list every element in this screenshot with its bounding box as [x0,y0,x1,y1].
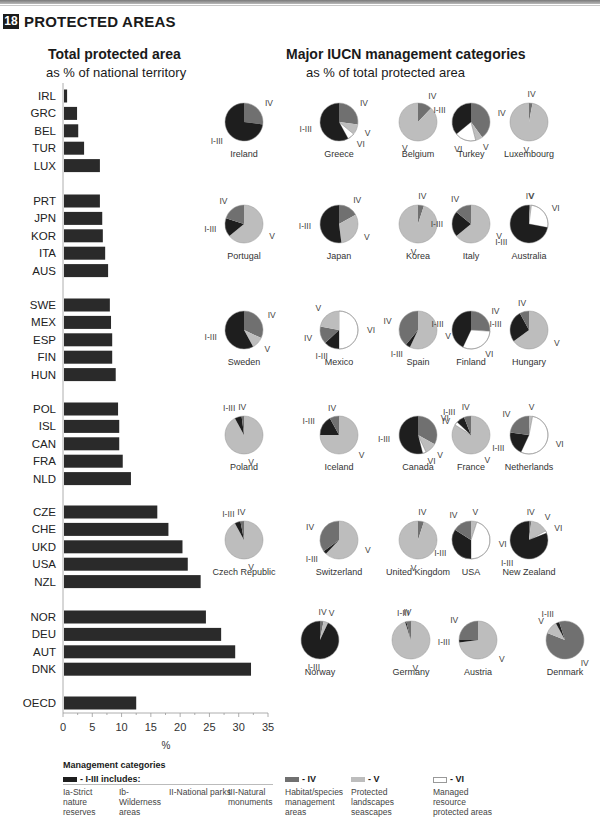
pie-country-label: Denmark [547,667,584,677]
pie-slice-label: IV [527,507,535,517]
pie-turkey: IVVVII-IIITurkey [433,103,506,159]
legend-sub-ia: Ia-Strict nature reserves [63,787,113,817]
pie-slice-label: I-III [542,609,554,619]
pie-slice-label: V [529,402,535,412]
pie-united-kingdom: IVVUnited Kingdom [386,507,450,577]
pie-slice-label: V [364,232,370,242]
pie-mexico: VII-IIIIVVMexico [304,303,375,367]
pie-slice-label: IV [418,191,426,201]
legend-desc-iv: Habitat/species management areas [285,787,340,817]
pie-slice-vi [529,205,548,227]
pie-slice-label: IV [498,108,506,118]
pie-slice-label: I-III [438,637,450,647]
legend-sub-ib: Ib-Wilderness areas [119,787,169,817]
pie-slice-label: I-III [378,434,390,444]
pie-slice-label: I-III [443,407,455,417]
pie-country-label: Korea [406,251,430,261]
legend-item-v: - V [351,774,380,784]
pie-poland: VI-IIIIVPoland [223,402,263,472]
pie-slice-iv [459,621,478,640]
pie-country-label: USA [462,567,481,577]
legend-item-iv: - IV [285,774,316,784]
pie-slice-label: V [529,191,535,201]
pie-slice-label: IV [528,89,536,99]
pie-slice-label: VI [367,325,375,335]
pie-italy: VI-IIIIVItaly [431,194,503,261]
pie-country-label: Ireland [230,149,258,159]
pie-slice-label: V [554,338,560,348]
pie-slice-iv [471,311,490,331]
pie-slice-label: I-III [492,443,504,453]
pie-slice-label: IV [268,310,276,320]
pie-country-label: Canada [402,462,434,472]
pie-slice-label: IV [220,196,228,206]
pie-slice-label: V [445,331,451,341]
legend-item-i-iii: - I-III includes: [63,774,141,784]
pie-country-label: Hungary [512,357,547,367]
pie-slice-label: V [437,450,443,460]
pie-slice-label: V [365,545,371,555]
pie-slice-label: VI [554,523,562,533]
pie-austria: VI-IIIIVAustria [438,615,505,677]
legend-swatch-iv [285,777,299,782]
pie-slice-label: I-III [434,548,446,558]
pie-switzerland: VI-IIIIVSwitzerland [306,521,371,577]
pie-slice-label: IV [384,316,392,326]
pie-slice-label: IV [449,510,457,520]
pie-netherlands: VVII-IIIIVNetherlands [492,402,563,472]
pie-slice-label: I-III [431,319,443,329]
pie-slice-label: I-III [223,403,235,413]
pie-country-label: Austria [464,667,492,677]
pie-country-label: Germany [392,667,430,677]
pie-greece: IVVVII-IIIGreece [300,98,371,159]
pie-slice-label: IV [462,402,470,412]
pie-slice-label: IV [403,607,411,617]
legend-divider [63,784,273,785]
pie-slice-label: IV [328,403,336,413]
pie-country-label: Poland [230,462,258,472]
pie-canada: IVVVII-IIICanada [378,416,451,472]
pie-country-label: Italy [463,251,480,261]
legend-label-v: - V [368,774,380,784]
pie-country-label: Turkey [457,149,485,159]
pie-slice-label: V [269,231,275,241]
legend-title: Management categories [63,760,166,770]
pie-country-label: Finland [456,357,486,367]
pie-country-label: Australia [511,251,546,261]
legend-sub-ii: II-National parks [169,787,231,797]
pie-luxembourg: IVVLuxembourg [504,89,554,159]
pie-slice-label: VI [499,539,507,549]
pie-slice-label: I-III [300,124,312,134]
pie-new-zealand: IVVVII-IIINew Zealand [501,507,562,577]
pie-slice-iv [339,103,358,124]
pie-slice-label: I-III [391,349,403,359]
legend-label-i-iii: - I-III includes: [80,774,141,784]
pie-france: VVII-IIIIVFrance [441,402,491,472]
pie-slice-label: IV [265,98,273,108]
pie-slice-label: IV [238,402,246,412]
pie-slice-label: IV [450,615,458,625]
pie-slice-label: IV [428,91,436,101]
pie-country-label: Portugal [227,251,261,261]
pie-slice-label: IV [237,507,245,517]
pie-australia: IVVVII-IIIAustralia [495,191,560,261]
pie-country-label: New Zealand [502,567,555,577]
pie-slice-label: I-III [205,332,217,342]
pie-sweden: IVVI-IIISweden [205,310,276,367]
pie-charts: IVI-IIIIrelandIVVVII-IIIGreeceIVVBelgium… [0,0,600,760]
pie-denmark: IVVI-IIIDenmark [538,609,589,677]
pie-country-label: Sweden [228,357,261,367]
pie-slice-vi [339,311,358,349]
pie-japan: IVVI-IIIJapan [299,195,370,261]
pie-germany: VI-IIIIVGermany [392,607,430,677]
pie-czech-republic: VI-IIIIVCzech Republic [212,507,276,577]
pie-slice-label: VI [485,349,493,359]
pie-slice-i-iii [320,205,341,243]
pie-belgium: IVVBelgium [399,91,437,159]
pie-slice-label: V [484,455,490,465]
pie-country-label: Belgium [402,149,435,159]
legend-sub-iii: III-Natural monuments [228,787,273,807]
pie-slice-label: IV [418,507,426,517]
pie-country-label: Netherlands [505,462,554,472]
pie-slice-label: IV [518,298,526,308]
